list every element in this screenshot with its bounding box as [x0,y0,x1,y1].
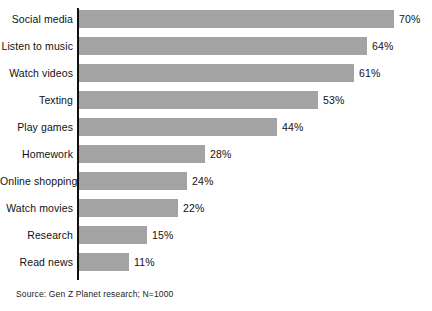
bar-row: Watch videos 61% [0,64,432,82]
bar [79,253,129,271]
category-label: Research [0,226,73,244]
category-label: Play games [0,118,73,136]
bar-row: Watch movies 22% [0,199,432,217]
value-label: 11% [134,253,155,271]
bar [79,64,354,82]
value-label: 15% [152,226,174,244]
value-label: 61% [359,64,381,82]
value-label: 64% [372,37,394,55]
value-label: 28% [210,145,232,163]
value-label: 70% [399,10,421,28]
bar-row: Read news 11% [0,253,432,271]
plot-area: Social media 70% Listen to music 64% Wat… [0,0,432,285]
bar-chart: Social media 70% Listen to music 64% Wat… [0,0,432,311]
category-label: Watch videos [0,64,73,82]
bar [79,37,367,55]
category-label: Watch movies [0,199,73,217]
bar [79,91,318,109]
value-label: 24% [192,172,214,190]
value-label: 53% [323,91,345,109]
value-label: 22% [183,199,205,217]
bar [79,118,277,136]
bar-row: Texting 53% [0,91,432,109]
category-label: Listen to music [0,37,73,55]
bar [79,10,394,28]
bar [79,199,178,217]
bar-row: Play games 44% [0,118,432,136]
bar-row: Online shopping 24% [0,172,432,190]
bar-row: Homework 28% [0,145,432,163]
bar-row: Listen to music 64% [0,37,432,55]
bar [79,145,205,163]
bar [79,172,187,190]
bar-row: Social media 70% [0,10,432,28]
category-label: Homework [0,145,73,163]
category-label: Online shopping [0,172,73,190]
category-label: Read news [0,253,73,271]
source-note: Source: Gen Z Planet research; N=1000 [16,289,173,299]
category-label: Social media [0,10,73,28]
category-label: Texting [0,91,73,109]
bar [79,226,147,244]
value-label: 44% [282,118,304,136]
bar-row: Research 15% [0,226,432,244]
